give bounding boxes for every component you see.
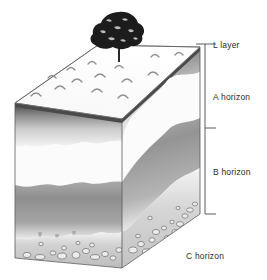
label-l-layer: L layer bbox=[213, 41, 240, 50]
front-eluvial-band bbox=[15, 141, 122, 187]
label-c-horizon: C horizon bbox=[186, 252, 224, 261]
label-b-horizon: B horizon bbox=[213, 168, 251, 177]
front-b-horizon bbox=[15, 182, 122, 240]
tree-canopy bbox=[91, 12, 145, 49]
soil-profile-figure: L layer A horizon B horizon C horizon bbox=[0, 0, 267, 280]
front-face bbox=[10, 95, 130, 280]
label-a-horizon: A horizon bbox=[213, 93, 250, 102]
